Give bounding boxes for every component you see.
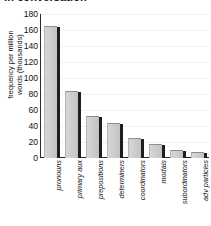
bar-shadow-edge — [162, 145, 165, 158]
chart-title-cropped: in conversation — [0, 0, 211, 5]
bar-subordinators — [170, 14, 183, 158]
plot-area — [41, 14, 209, 158]
bar-rect — [128, 138, 141, 158]
bar-shadow-edge — [120, 124, 123, 158]
x-axis-tick-labels: pronounsprimary auxprepositionsdetermine… — [41, 160, 209, 226]
x-tick-subordinators: subordinators — [180, 160, 189, 204]
bar-rect — [44, 26, 57, 158]
y-tick-60: 60 — [4, 105, 38, 115]
y-tick-120: 120 — [4, 57, 38, 67]
bar-shadow-edge — [99, 117, 102, 158]
bar-modals — [149, 14, 162, 158]
y-tick-20: 20 — [4, 137, 38, 147]
bar-rect — [149, 144, 162, 158]
y-tick-40: 40 — [4, 121, 38, 131]
bar-shadow-edge — [78, 92, 81, 158]
bar-rect — [107, 123, 120, 158]
y-tick-180: 180 — [4, 9, 38, 19]
x-tick-coordinators: coordinators — [138, 160, 147, 200]
bar-rect — [65, 91, 78, 158]
chart-title: in conversation — [4, 0, 87, 3]
x-tick-determiners: determiners — [117, 160, 126, 199]
bar-rect — [86, 116, 99, 158]
bar-shadow-edge — [183, 151, 186, 158]
bar-rect — [191, 152, 204, 158]
bar-primary-aux — [65, 14, 78, 158]
bar-prepositions — [86, 14, 99, 158]
bar-shadow-edge — [57, 27, 60, 158]
bar-shadow-edge — [141, 139, 144, 158]
bar-chart-figure: in conversation frequency per million wo… — [0, 0, 211, 226]
y-tick-80: 80 — [4, 89, 38, 99]
bar-coordinators — [128, 14, 141, 158]
x-tick-pronouns: pronouns — [54, 160, 63, 190]
y-tick-0: 0 — [4, 153, 38, 163]
bar-rect — [170, 150, 183, 158]
y-tick-100: 100 — [4, 73, 38, 83]
bar-adv-particles — [191, 14, 204, 158]
x-tick-primary-aux: primary aux — [75, 160, 84, 198]
y-axis-tick-labels: 180160140120100806040200 — [0, 14, 38, 158]
x-tick-modals: modals — [159, 160, 168, 184]
bar-series — [41, 14, 209, 158]
y-tick-140: 140 — [4, 41, 38, 51]
bar-pronouns — [44, 14, 57, 158]
y-tick-160: 160 — [4, 25, 38, 35]
x-tick-adv-particles: adv particles — [201, 160, 210, 201]
bar-shadow-edge — [204, 153, 207, 158]
x-tick-prepositions: prepositions — [96, 160, 105, 199]
bar-determiners — [107, 14, 120, 158]
